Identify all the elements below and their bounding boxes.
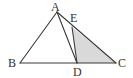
label-c: C <box>118 56 126 70</box>
label-b: B <box>8 56 16 70</box>
label-d: D <box>73 65 82 78</box>
geometry-diagram: A E B C D <box>0 0 133 78</box>
label-e: E <box>70 11 77 25</box>
segment-ab <box>20 12 57 63</box>
label-a: A <box>51 0 60 14</box>
